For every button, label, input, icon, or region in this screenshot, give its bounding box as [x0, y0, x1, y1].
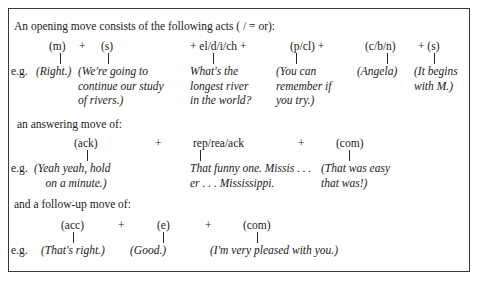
- connector-line: [108, 53, 109, 64]
- plus-sign: +: [205, 218, 212, 233]
- act-label-c-b-n: (c/b/n): [365, 39, 396, 54]
- connector-line: [87, 150, 88, 161]
- act-label-m: (m): [49, 39, 66, 54]
- connector-line: [349, 150, 350, 161]
- act-label-el-d-i-ch: + el/d/i/ch +: [190, 39, 246, 54]
- connector-line: [387, 53, 388, 64]
- eg-label: e.g.: [11, 243, 28, 258]
- example-good: (Good.): [130, 243, 166, 258]
- connector-line: [213, 53, 214, 64]
- act-label-rep-rea-ack: rep/rea/ack: [193, 136, 244, 151]
- connector-line: [200, 150, 201, 161]
- example-angela: (Angela): [357, 64, 397, 79]
- example-right: (Right.): [36, 64, 71, 79]
- act-label-s: (s): [101, 39, 113, 54]
- example-thats-right: (That's right.): [41, 243, 105, 258]
- connector-line: [434, 53, 435, 64]
- plus-sign: +: [155, 136, 162, 151]
- act-label-com: (com): [243, 218, 270, 233]
- answering-move-heading: an answering move of:: [17, 117, 122, 132]
- example-rivers: (We're going to continue our study of ri…: [78, 64, 164, 108]
- act-label-ack: (ack): [74, 136, 98, 151]
- example-yeah-yeah: (Yeah yeah, hold on a minute.): [34, 161, 111, 190]
- plus-sign: +: [298, 136, 305, 151]
- example-begins-m: (It begins with M.): [414, 64, 458, 93]
- opening-move-heading: An opening move consists of the followin…: [14, 19, 275, 34]
- connector-line: [296, 53, 297, 64]
- example-longest-river: What's the longest river in the world?: [190, 64, 251, 108]
- connector-line: [163, 232, 164, 243]
- followup-move-heading: and a follow-up move of:: [14, 197, 131, 212]
- eg-label: e.g.: [11, 64, 28, 79]
- act-label-p-cl: (p/cl) +: [290, 39, 324, 54]
- act-label-acc: (acc): [61, 218, 84, 233]
- example-very-pleased: (I'm very pleased with you.): [210, 243, 338, 258]
- example-remember: (You can remember if you try.): [276, 64, 331, 108]
- plus-sign: +: [118, 218, 125, 233]
- act-label-s2: + (s): [418, 39, 440, 54]
- eg-label: e.g.: [11, 161, 28, 176]
- plus-sign: +: [79, 39, 86, 54]
- act-label-e: (e): [157, 218, 170, 233]
- act-label-com: (com): [336, 136, 363, 151]
- connector-line: [73, 232, 74, 243]
- example-mississippi: That funny one. Missis . . . er . . . Mi…: [190, 161, 311, 190]
- connector-line: [60, 53, 61, 64]
- example-that-was-easy: (That was easy that was!): [321, 161, 390, 190]
- connector-line: [257, 232, 258, 243]
